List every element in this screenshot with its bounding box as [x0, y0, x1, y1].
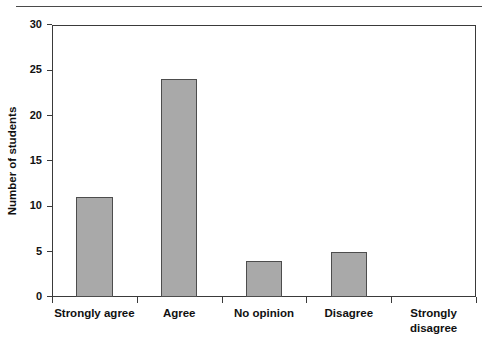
y-tick-mark: [47, 160, 52, 161]
y-tick-label: 20: [8, 109, 42, 121]
x-axis-label-line: Disagree: [324, 307, 373, 319]
x-tick-mark: [137, 297, 138, 303]
y-tick-label: 5: [8, 245, 42, 257]
x-axis-label-strongly-agree: Strongly agree: [52, 306, 137, 321]
x-tick-mark: [222, 297, 223, 303]
x-axis-label-no-opinion: No opinion: [222, 306, 307, 321]
y-tick-label: 30: [8, 18, 42, 30]
x-axis-label-line: Agree: [163, 307, 196, 319]
x-tick-mark: [52, 297, 53, 303]
x-tick-mark: [476, 297, 477, 303]
top-divider-rule: [16, 6, 482, 7]
plot-area-frame: [52, 25, 476, 297]
x-axis-label-line: disagree: [410, 322, 457, 334]
x-tick-mark: [306, 297, 307, 303]
y-tick-mark: [47, 251, 52, 252]
y-tick-label: 15: [8, 154, 42, 166]
x-axis-label-agree: Agree: [137, 306, 222, 321]
x-axis-labels: Strongly agreeAgreeNo opinionDisagreeStr…: [52, 306, 476, 352]
y-tick-mark: [47, 24, 52, 25]
x-axis-label-line: Strongly: [410, 307, 457, 319]
x-axis-label-strongly-disagree: Stronglydisagree: [391, 306, 476, 336]
y-tick-label: 0: [8, 290, 42, 302]
x-tick-mark: [391, 297, 392, 303]
y-tick-label: 10: [8, 199, 42, 211]
y-tick-mark: [47, 206, 52, 207]
y-tick-label: 25: [8, 63, 42, 75]
x-axis-label-line: No opinion: [234, 307, 294, 319]
y-tick-mark: [47, 70, 52, 71]
x-axis-label-line: Strongly agree: [54, 307, 135, 319]
x-axis-label-disagree: Disagree: [306, 306, 391, 321]
bar-chart-figure: Number of students 051015202530 Strongly…: [0, 0, 498, 355]
y-tick-mark: [47, 115, 52, 116]
